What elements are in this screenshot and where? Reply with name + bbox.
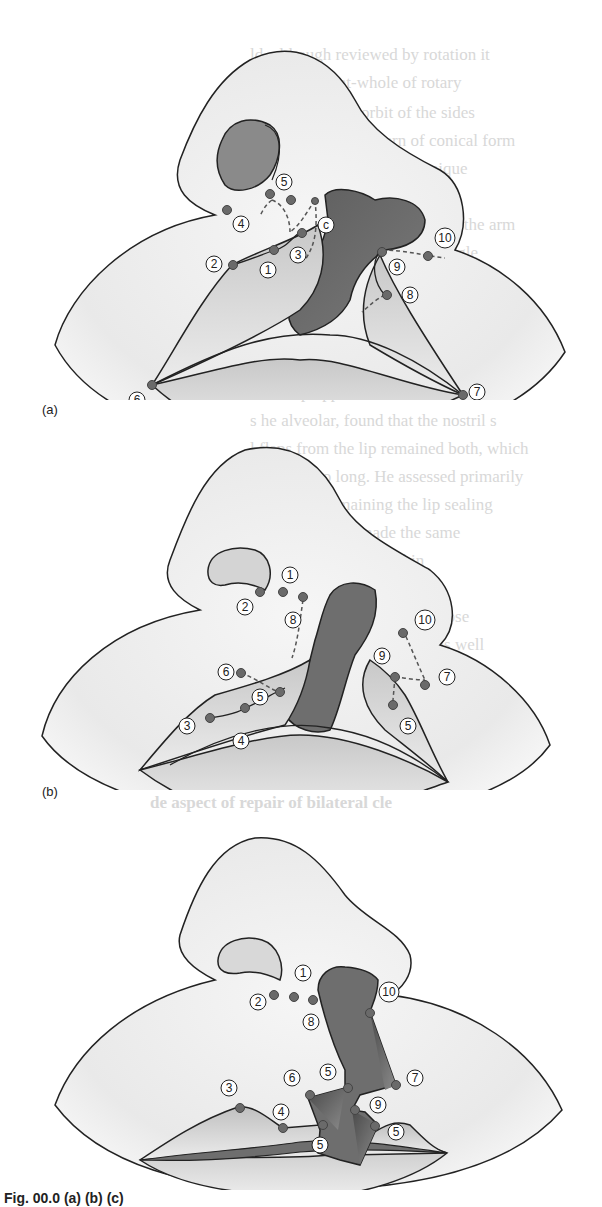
svg-text:8: 8	[407, 288, 414, 302]
svg-text:4: 4	[238, 734, 245, 748]
svg-text:8: 8	[290, 613, 297, 627]
svg-text:5: 5	[325, 1065, 332, 1079]
svg-text:5: 5	[281, 175, 288, 189]
svg-text:1: 1	[287, 568, 294, 582]
figure-caption: Fig. 00.0 (a) (b) (c)	[4, 1190, 124, 1206]
panel-b-label: (b)	[42, 784, 58, 799]
bleed-heading: de aspect of repair of bilateral cle	[150, 790, 392, 816]
panel-c-illustration: 1 2 8 10 6 5 7 9 3 4 5 5	[0, 820, 602, 1190]
svg-text:10: 10	[438, 231, 452, 245]
svg-text:9: 9	[379, 649, 386, 663]
svg-text:5: 5	[405, 719, 412, 733]
svg-text:6: 6	[134, 393, 141, 400]
svg-text:2: 2	[242, 600, 249, 614]
svg-text:7: 7	[474, 385, 481, 399]
panel-a: 6 7 2 1 3 4 5 c 9 8 10 (a)	[0, 0, 602, 400]
svg-text:3: 3	[226, 1081, 233, 1095]
svg-text:3: 3	[184, 719, 191, 733]
svg-text:8: 8	[308, 1015, 315, 1029]
svg-text:c: c	[323, 218, 329, 232]
svg-text:3: 3	[295, 248, 302, 262]
svg-text:2: 2	[211, 257, 218, 271]
panel-b-illustration: 1 2 8 6 5 3 4 10 9 7 5	[0, 430, 602, 790]
svg-text:5: 5	[257, 690, 264, 704]
svg-text:6: 6	[223, 665, 230, 679]
svg-text:6: 6	[289, 1071, 296, 1085]
svg-text:1: 1	[265, 263, 272, 277]
panel-a-label: (a)	[42, 402, 58, 417]
svg-text:5: 5	[393, 1125, 400, 1139]
svg-text:5: 5	[317, 1138, 324, 1152]
svg-text:4: 4	[238, 217, 245, 231]
svg-text:7: 7	[412, 1071, 419, 1085]
panel-a-illustration: 6 7 2 1 3 4 5 c 9 8 10	[0, 0, 602, 400]
svg-text:1: 1	[300, 966, 307, 980]
svg-text:10: 10	[382, 985, 396, 999]
panel-c: 1 2 8 10 6 5 7 9 3 4 5 5	[0, 820, 602, 1190]
svg-text:9: 9	[375, 1098, 382, 1112]
face-outline	[55, 51, 565, 400]
svg-text:10: 10	[418, 613, 432, 627]
svg-text:2: 2	[255, 995, 262, 1009]
svg-text:9: 9	[394, 260, 401, 274]
panel-b: 1 2 8 6 5 3 4 10 9 7 5 (b)	[0, 430, 602, 790]
svg-text:4: 4	[278, 1105, 285, 1119]
svg-text:7: 7	[444, 670, 451, 684]
